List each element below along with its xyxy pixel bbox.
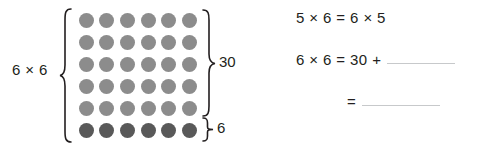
dot-grid (76, 9, 200, 142)
dot-light (120, 79, 135, 94)
equation-3-text: = (347, 93, 356, 110)
dot-cell (138, 31, 159, 53)
dot-cell (179, 75, 200, 97)
dot-light (79, 79, 94, 94)
dot-cell (159, 9, 180, 31)
dot-cell (76, 31, 97, 53)
dot-cell (138, 98, 159, 120)
equation-1-text: 5 × 6 = 6 × 5 (296, 9, 386, 26)
brace-30-icon (202, 9, 216, 117)
answer-blank-1[interactable] (387, 62, 455, 64)
equation-list: 5 × 6 = 6 × 5 6 × 6 = 30 + = (250, 0, 480, 148)
dot-cell (117, 53, 138, 75)
dot-cell (138, 120, 159, 142)
dot-cell (159, 31, 180, 53)
dot-cell (179, 120, 200, 142)
dot-dark (99, 123, 114, 138)
dot-cell (138, 75, 159, 97)
equation-row-3: = (347, 93, 440, 110)
dot-light (79, 57, 94, 72)
dot-light (79, 35, 94, 50)
dot-light (99, 35, 114, 50)
dot-cell (97, 53, 118, 75)
dot-light (161, 57, 176, 72)
dot-cell (138, 9, 159, 31)
dot-light (141, 13, 156, 28)
dot-light (161, 35, 176, 50)
dot-cell (76, 120, 97, 142)
array-total-label: 6 × 6 (12, 61, 48, 78)
dot-light (99, 79, 114, 94)
dot-light (161, 13, 176, 28)
dot-cell (117, 120, 138, 142)
dot-light (182, 13, 197, 28)
dot-light (120, 57, 135, 72)
dot-cell (97, 120, 118, 142)
dot-dark (79, 123, 94, 138)
dot-light (120, 101, 135, 116)
dot-cell (97, 98, 118, 120)
dot-dark (182, 123, 197, 138)
dot-dark (141, 123, 156, 138)
dot-cell (117, 98, 138, 120)
dot-cell (179, 98, 200, 120)
brace-30-label: 30 (219, 53, 236, 70)
dot-light (141, 101, 156, 116)
dot-light (141, 35, 156, 50)
dot-light (182, 35, 197, 50)
dot-light (141, 79, 156, 94)
dot-light (79, 13, 94, 28)
dot-cell (76, 53, 97, 75)
dot-cell (117, 75, 138, 97)
brace-6-icon (202, 117, 214, 142)
dot-light (120, 13, 135, 28)
array-diagram: 6 × 6 (0, 0, 250, 148)
dot-cell (97, 9, 118, 31)
dot-light (79, 101, 94, 116)
dot-light (182, 79, 197, 94)
dot-cell (159, 120, 180, 142)
dot-cell (97, 75, 118, 97)
dot-cell (179, 9, 200, 31)
dot-dark (120, 123, 135, 138)
dot-cell (76, 98, 97, 120)
equation-2-text: 6 × 6 = 30 + (296, 51, 381, 68)
dot-light (182, 101, 197, 116)
dot-light (182, 57, 197, 72)
equation-row-1: 5 × 6 = 6 × 5 (296, 9, 386, 26)
equation-row-2: 6 × 6 = 30 + (296, 51, 455, 68)
dot-cell (159, 53, 180, 75)
dot-light (120, 35, 135, 50)
dot-cell (138, 53, 159, 75)
answer-blank-2[interactable] (362, 104, 440, 106)
dot-cell (117, 9, 138, 31)
brace-6-label: 6 (217, 119, 225, 136)
dot-light (99, 57, 114, 72)
dot-light (99, 13, 114, 28)
dot-dark (161, 123, 176, 138)
dot-cell (117, 31, 138, 53)
dot-cell (76, 9, 97, 31)
dot-light (161, 79, 176, 94)
left-brace-icon (59, 8, 72, 143)
dot-cell (76, 75, 97, 97)
dot-cell (159, 98, 180, 120)
dot-light (99, 101, 114, 116)
dot-light (161, 101, 176, 116)
dot-cell (179, 53, 200, 75)
dot-cell (179, 31, 200, 53)
dot-light (141, 57, 156, 72)
dot-cell (159, 75, 180, 97)
dot-cell (97, 31, 118, 53)
